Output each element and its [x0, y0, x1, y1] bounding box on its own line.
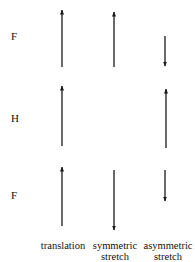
mode-label-asymmetric-stretch: asymmetric stretch: [142, 240, 194, 262]
mode-label-line1: translation: [41, 240, 85, 251]
mode-label-line1: symmetric: [93, 240, 137, 251]
mode-label-line2: stretch: [154, 251, 182, 262]
mode-label-line1: asymmetric: [144, 240, 193, 251]
mode-label-symmetric-stretch: symmetric stretch: [90, 240, 140, 262]
vibration-arrows: [0, 0, 195, 262]
mode-label-translation: translation: [38, 240, 88, 251]
mode-label-line2: stretch: [101, 251, 129, 262]
